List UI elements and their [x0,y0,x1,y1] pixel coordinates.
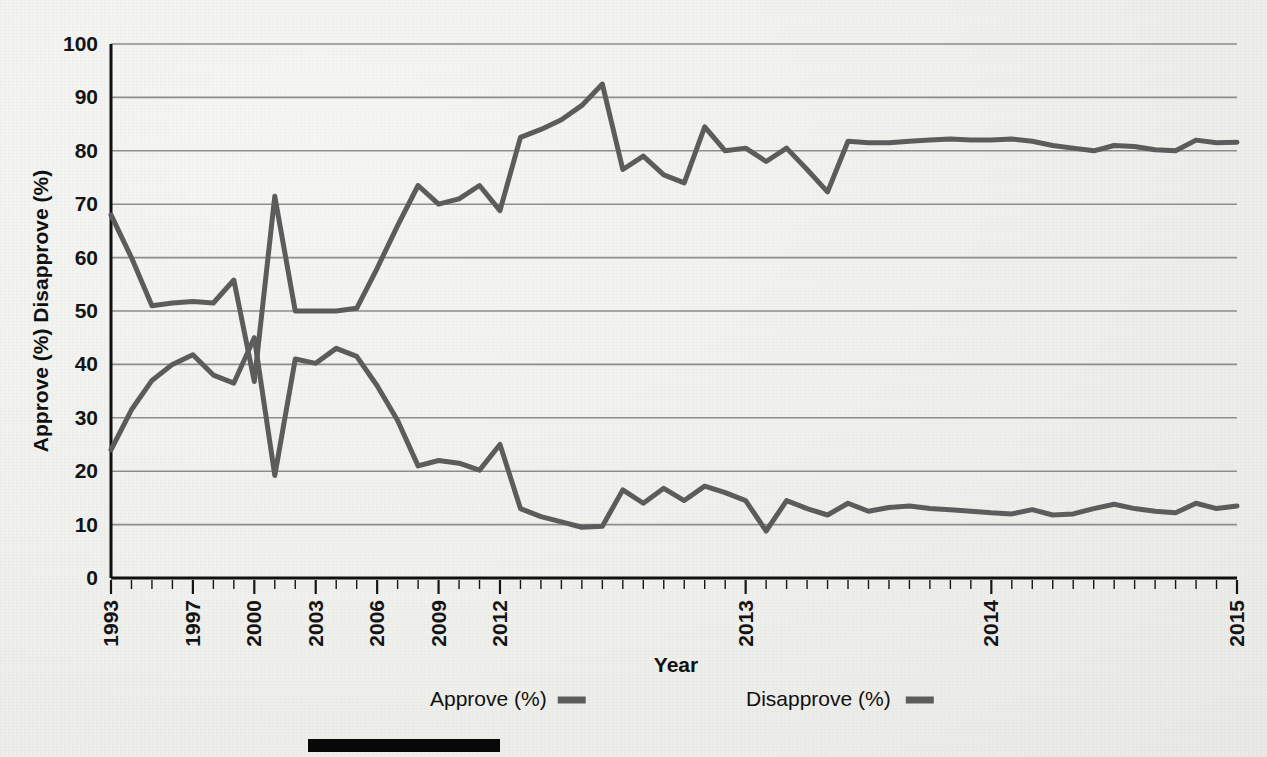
y-axis-title-text: Approve (%) Disapprove (%) [29,170,52,452]
y-tick-label: 60 [75,246,98,269]
y-tick-label: 40 [75,352,98,375]
y-tick-label: 20 [75,459,98,482]
bottom-black-bar-artifact [308,739,500,752]
x-tick-label: 2000 [242,600,265,647]
y-tick-label: 100 [63,32,98,55]
y-tick-label: 70 [75,192,98,215]
y-axis-tick-labels: 0102030405060708090100 [63,32,98,589]
y-tick-label: 90 [75,85,98,108]
y-tick-label: 10 [75,513,98,536]
x-axis-title: Year [654,653,698,676]
y-tick-label: 30 [75,406,98,429]
x-tick-label: 1997 [181,600,204,647]
legend-label: Disapprove (%) [746,687,891,710]
x-tick-label: 2006 [365,600,388,647]
x-tick-label: 2015 [1225,600,1248,647]
series-line-disapprove [111,84,1237,381]
y-tick-label: 50 [75,299,98,322]
series-line-approve [111,338,1237,531]
chart-legend: Approve (%)Disapprove (%) [430,687,934,710]
y-tick-label: 0 [86,566,98,589]
x-tick-label: 2009 [427,600,450,647]
x-axis-title-text: Year [654,653,698,676]
x-tick-label: 2003 [304,600,327,647]
x-tick-label: 1993 [99,600,122,647]
x-tick-label: 2012 [488,600,511,647]
x-axis-tick-labels: 1993199720002003200620092012201320142015 [99,600,1248,647]
y-axis-title: Approve (%) Disapprove (%) [29,170,52,452]
line-chart-figure: 0102030405060708090100 19931997200020032… [0,0,1267,757]
x-tick-label: 2014 [979,600,1002,647]
x-axis-ticks [111,580,1237,594]
y-tick-label: 80 [75,139,98,162]
x-tick-label: 2013 [734,600,757,647]
legend-label: Approve (%) [430,687,547,710]
